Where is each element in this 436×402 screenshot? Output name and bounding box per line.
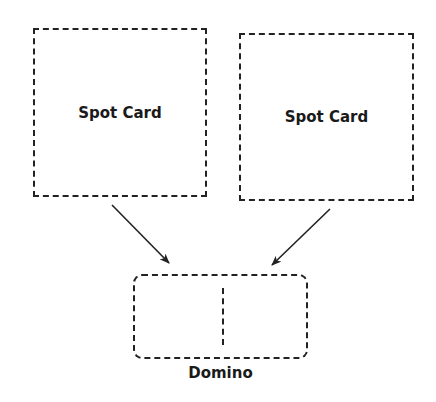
arrow-left-to-domino [112, 205, 169, 263]
domino-divider [222, 288, 224, 345]
domino [133, 274, 308, 359]
domino-label: Domino [133, 364, 308, 382]
arrow-right-to-domino [272, 209, 330, 265]
